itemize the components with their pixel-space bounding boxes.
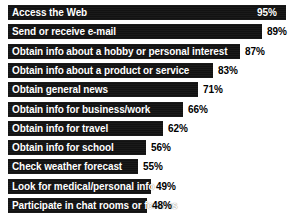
bar-row: Access the Web95% — [0, 5, 292, 22]
bar-value-label: 95% — [257, 5, 277, 20]
bar-row: Obtain info for travel62% — [0, 121, 292, 138]
bar-row: Look for medical/personal info49% — [0, 179, 292, 196]
bar-category-label: Access the Web — [12, 5, 87, 20]
bar-row: Obtain info about a product or service83… — [0, 63, 292, 80]
bar-category-label: Look for medical/personal info — [12, 179, 155, 194]
bar-value-label: 83% — [218, 63, 238, 78]
bar-row: Obtain info for business/work66% — [0, 102, 292, 119]
bar-row: Participate in chat rooms or forums48% — [0, 198, 292, 215]
bar-value-label: 66% — [188, 102, 208, 117]
bar-category-label: Obtain info about a product or service — [12, 63, 189, 78]
bar-category-label: Obtain info for travel — [12, 121, 108, 136]
bar-category-label: Check weather forecast — [12, 159, 122, 174]
bar-value-label: 89% — [267, 24, 287, 39]
bar-category-label: Obtain info about a hobby or personal in… — [12, 44, 227, 59]
bar-value-label: 49% — [156, 179, 176, 194]
bar-category-label: Obtain info for school — [12, 140, 114, 155]
bar-chart: Access the Web95%Send or receive e-mail8… — [0, 0, 292, 224]
bar-value-label: 71% — [203, 82, 223, 97]
bar-category-label: Obtain general news — [12, 82, 108, 97]
bar-row: Obtain info for school56% — [0, 140, 292, 157]
bar-category-label: Obtain info for business/work — [12, 102, 150, 117]
bar-row: Check weather forecast55% — [0, 159, 292, 176]
bar-value-label: 48% — [152, 198, 172, 213]
bar-row: Obtain general news71% — [0, 82, 292, 99]
bar-value-label: 62% — [168, 121, 188, 136]
bar-value-label: 56% — [151, 140, 171, 155]
bar-value-label: 55% — [143, 159, 163, 174]
bar-row: Obtain info about a hobby or personal in… — [0, 44, 292, 61]
bar-row: Send or receive e-mail89% — [0, 24, 292, 41]
bar-category-label: Send or receive e-mail — [12, 24, 116, 39]
bar-value-label: 87% — [245, 44, 265, 59]
